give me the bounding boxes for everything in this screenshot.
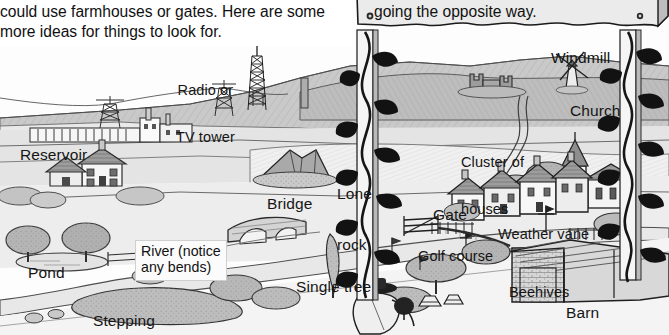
illustration-canvas: Radio or TV tower Windmill Church Cluste… — [0, 0, 669, 335]
label-pond: Pond — [28, 265, 65, 282]
label-single-tree: Single tree — [296, 279, 371, 296]
intro-text-block: could use farmhouses or gates. Here are … — [0, 0, 352, 46]
label-church: Church — [570, 103, 621, 120]
label-barn: Barn — [566, 305, 599, 322]
label-weather-vane: Weather vane — [498, 227, 589, 243]
label-radio-tv-tower: Radio or TV tower — [176, 52, 235, 177]
label-stepping: Stepping — [93, 313, 155, 330]
torn-sign-panel: going the opposite way. — [352, 0, 669, 36]
label-golf-course: Golf course — [418, 249, 493, 265]
intro-line-2: more ideas for things to look for. — [0, 22, 352, 42]
intro-line-1: could use farmhouses or gates. Here are … — [0, 2, 352, 22]
label-gate: Gate — [433, 207, 467, 224]
label-lone-rock: Lone rock — [337, 153, 372, 287]
callout-river-note: River (notice any bends) — [135, 240, 227, 281]
label-windmill: Windmill — [551, 50, 610, 67]
landscape-scene: Radio or TV tower Windmill Church Cluste… — [0, 0, 669, 335]
sign-text: going the opposite way. — [374, 3, 537, 21]
right-post — [598, 30, 666, 282]
label-reservoir: Reservoir — [20, 147, 87, 164]
label-bridge: Bridge — [267, 196, 312, 213]
label-beehives: Beehives — [509, 285, 569, 301]
